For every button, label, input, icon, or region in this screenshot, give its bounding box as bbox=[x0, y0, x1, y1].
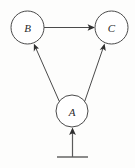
edge-a-to-c-line bbox=[85, 47, 104, 102]
node-c[interactable]: C bbox=[95, 11, 128, 44]
exogenous-input-to-a bbox=[57, 127, 88, 157]
diagram-canvas: B C A bbox=[0, 0, 135, 168]
edge-a-to-b-line bbox=[35, 47, 59, 102]
edge-b-to-c bbox=[44, 24, 95, 30]
edge-a-to-b bbox=[34, 44, 60, 102]
node-c-label: C bbox=[108, 22, 116, 34]
edge-a-to-c bbox=[85, 44, 106, 102]
causal-diagram: B C A bbox=[0, 0, 135, 168]
node-b[interactable]: B bbox=[11, 11, 44, 44]
node-a[interactable]: A bbox=[56, 95, 88, 127]
node-a-label: A bbox=[68, 106, 76, 118]
node-b-label: B bbox=[24, 22, 31, 34]
